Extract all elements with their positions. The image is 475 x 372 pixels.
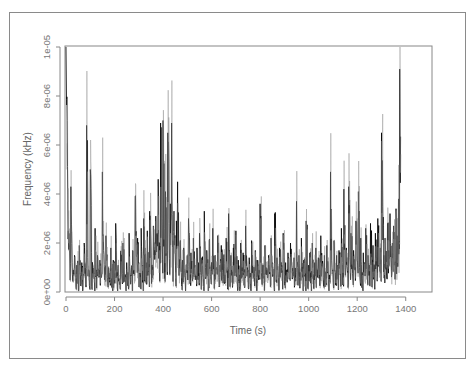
plot-border [65, 46, 432, 292]
y-tick-label: 0e+00 [41, 279, 52, 306]
x-tick-label: 0 [63, 303, 68, 314]
y-tick-label: 8e-06 [41, 84, 52, 108]
y-tick-label: 6e-06 [41, 133, 52, 157]
x-tick-label: 600 [204, 303, 220, 314]
y-tick-label: 2e-06 [41, 231, 52, 255]
x-axis: 0200400600800100012001400 [63, 297, 416, 314]
plot-area [65, 46, 432, 292]
chart-svg: 0200400600800100012001400 0e+002e-064e-0… [0, 0, 475, 372]
x-tick-label: 200 [107, 303, 123, 314]
y-tick-label: 4e-06 [41, 182, 52, 206]
x-tick-label: 800 [252, 303, 268, 314]
y-axis-title: Frequency (kHz) [22, 132, 33, 206]
y-axis: 0e+002e-064e-066e-068e-061e-05 [41, 35, 60, 306]
x-tick-label: 400 [155, 303, 171, 314]
y-tick-label: 1e-05 [41, 35, 52, 59]
x-axis-title: Time (s) [230, 325, 266, 336]
x-tick-label: 1000 [298, 303, 319, 314]
x-tick-label: 1200 [347, 303, 368, 314]
x-tick-label: 1400 [395, 303, 416, 314]
